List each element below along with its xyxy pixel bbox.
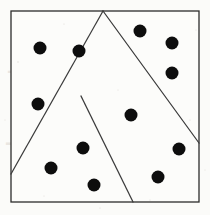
scan-speck — [5, 120, 6, 121]
point-marker — [77, 142, 90, 155]
point-marker — [34, 42, 47, 55]
point-marker — [134, 25, 147, 38]
point-marker — [88, 179, 101, 192]
partition-diagram: ——————— — [0, 0, 210, 215]
figure-container: ——————— — [0, 0, 210, 215]
point-marker — [45, 162, 58, 175]
scan-speck — [63, 23, 64, 24]
scan-speck — [149, 199, 150, 200]
scan-speck — [196, 30, 197, 31]
scan-speck — [44, 196, 45, 197]
point-marker — [166, 37, 179, 50]
scan-speck — [189, 119, 190, 120]
point-marker — [125, 109, 138, 122]
point-marker — [173, 143, 186, 156]
scan-speck — [118, 90, 119, 91]
scan-speck — [205, 170, 206, 171]
point-marker — [166, 67, 179, 80]
point-marker — [32, 98, 45, 111]
point-marker — [73, 45, 86, 58]
point-marker — [152, 171, 165, 184]
scan-speck — [99, 207, 100, 208]
scan-speck — [17, 61, 18, 62]
